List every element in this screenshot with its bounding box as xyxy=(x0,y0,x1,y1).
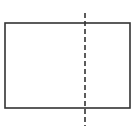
rectangle-shape xyxy=(5,23,130,108)
fold-line-diagram xyxy=(0,0,138,130)
